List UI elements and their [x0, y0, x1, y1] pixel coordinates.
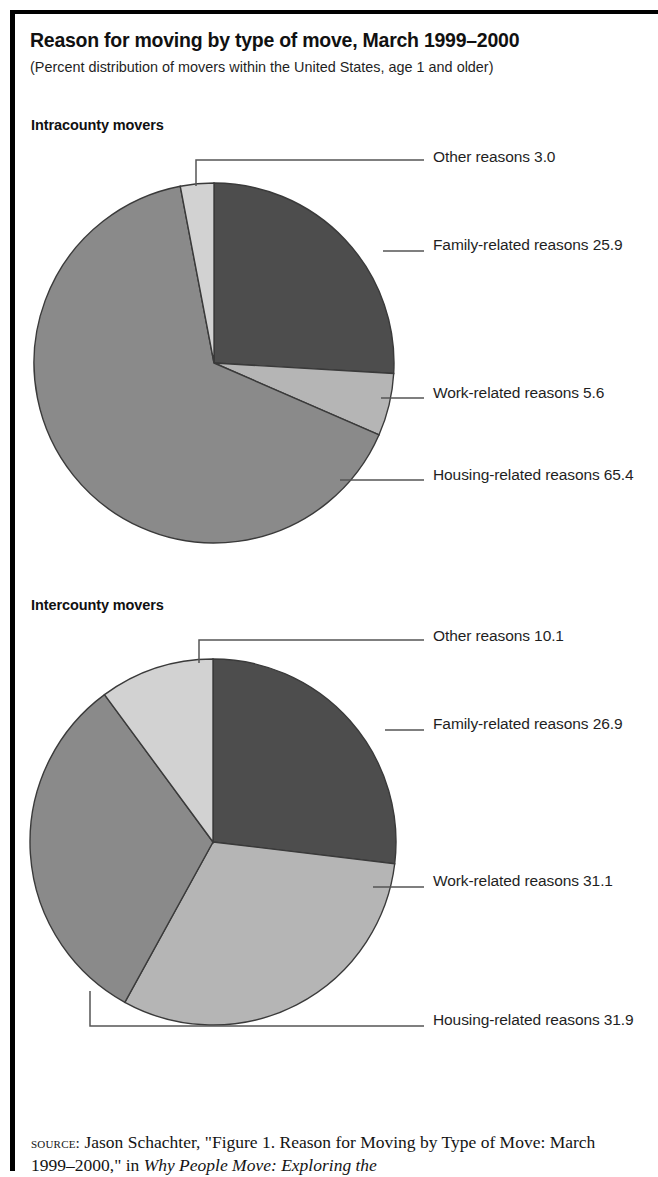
pie-slice: [30, 695, 213, 1003]
callout-label-intracounty-housing: Housing-related reasons 65.4: [433, 466, 634, 484]
figure-frame-top-rule: [10, 10, 658, 14]
leader-intercounty-housing: [90, 991, 424, 1026]
pie-slice: [214, 183, 394, 373]
figure-frame-left-rule: [10, 10, 15, 1171]
pie-slice: [214, 363, 394, 435]
pie-slice: [34, 186, 379, 543]
callout-label-intracounty-family: Family-related reasons 25.9: [433, 236, 622, 254]
figure-header: Reason for moving by type of move, March…: [30, 28, 640, 75]
leader-intracounty-other: [196, 160, 424, 186]
figure-subtitle: (Percent distribution of movers within t…: [30, 58, 616, 75]
pie-chart-intracounty: [34, 183, 394, 543]
leader-intercounty-other: [199, 640, 424, 663]
callout-label-intracounty-other: Other reasons 3.0: [433, 148, 555, 166]
source-publication-title: Why People Move: Exploring the: [144, 1155, 377, 1175]
pie-slice: [125, 842, 395, 1025]
callout-label-intercounty-housing: Housing-related reasons 31.9: [433, 1011, 634, 1029]
source-note: source: Jason Schachter, "Figure 1. Reas…: [31, 1131, 631, 1177]
pie-chart-intercounty: [30, 659, 396, 1025]
callout-label-intercounty-other: Other reasons 10.1: [433, 627, 564, 645]
callout-label-intracounty-work: Work-related reasons 5.6: [433, 384, 604, 402]
panel-heading-intercounty: Intercounty movers: [31, 597, 164, 613]
callout-label-intercounty-family: Family-related reasons 26.9: [433, 715, 622, 733]
pie-slice: [213, 659, 396, 864]
figure-title: Reason for moving by type of move, March…: [30, 28, 610, 52]
callout-label-intercounty-work: Work-related reasons 31.1: [433, 872, 613, 890]
panel-heading-intracounty: Intracounty movers: [31, 117, 164, 133]
pie-slice: [105, 659, 213, 842]
source-kicker: source:: [31, 1134, 80, 1151]
pie-slice: [180, 183, 214, 363]
callout-leader-lines: [90, 160, 424, 1026]
